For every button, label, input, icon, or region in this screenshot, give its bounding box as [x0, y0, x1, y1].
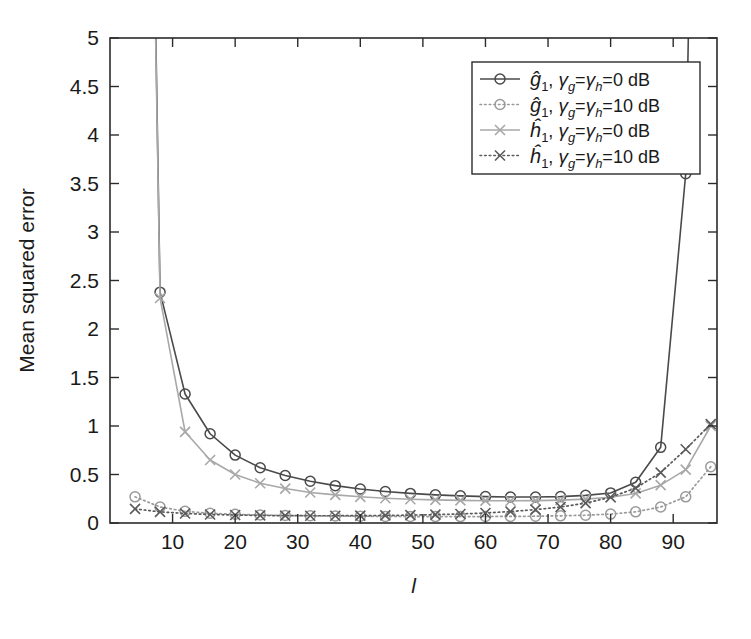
x-tick-label: 70: [536, 530, 559, 553]
y-tick-label: 1.5: [70, 366, 99, 389]
y-tick-label: 1: [87, 414, 99, 437]
y-tick-label: 3: [87, 220, 99, 243]
y-tick-label: 5: [87, 26, 99, 49]
x-tick-label: 10: [161, 530, 184, 553]
legend-layer: ĝ1, γg=γh=0 dBĝ1, γg=γh=10 dBĥ1, γg=γh=0…: [472, 62, 700, 174]
x-tick-label: 40: [349, 530, 372, 553]
x-tick-label: 30: [286, 530, 309, 553]
y-tick-label: 2: [87, 317, 99, 340]
x-tick-label: 90: [662, 530, 685, 553]
y-tick-label: 3.5: [70, 172, 99, 195]
y-tick-label: 0.5: [70, 463, 99, 486]
x-tick-label: 60: [474, 530, 497, 553]
y-tick-label: 4.5: [70, 75, 99, 98]
y-axis-label: Mean squared error: [15, 188, 38, 372]
chart-figure: 10203040506070809000.511.522.533.544.55l…: [0, 0, 751, 639]
x-tick-label: 20: [223, 530, 246, 553]
x-tick-label: 50: [411, 530, 434, 553]
y-tick-label: 2.5: [70, 269, 99, 292]
legend-label-h1_0dB: ĥ1, γg=γh=0 dB: [530, 118, 650, 145]
y-tick-label: 4: [87, 123, 99, 146]
x-tick-label: 80: [599, 530, 622, 553]
legend-label-h1_10dB: ĥ1, γg=γh=10 dB: [530, 144, 660, 171]
y-tick-label: 0: [87, 511, 99, 534]
mse-vs-l-line-chart: 10203040506070809000.511.522.533.544.55l…: [0, 0, 751, 639]
